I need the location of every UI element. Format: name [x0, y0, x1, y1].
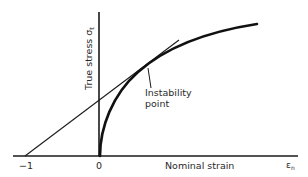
- instability-label-line1: Instability: [145, 87, 192, 98]
- y-axis-label: True stress σt: [83, 27, 96, 91]
- annotation-leader: [148, 68, 151, 88]
- y-axis-label-text: True stress σ: [83, 30, 94, 91]
- x-axis-label: Nominal strain: [165, 160, 234, 171]
- instability-label-line2: point: [145, 98, 170, 109]
- tick-label-minus-one: −1: [19, 160, 33, 171]
- y-axis-label-subscript: t: [88, 27, 96, 30]
- considere-construction-diagram: Instability point True stress σt −1 0 No…: [0, 0, 308, 177]
- tick-label-zero: 0: [96, 160, 102, 171]
- x-axis-symbol: εn: [286, 160, 295, 171]
- x-axis-symbol-subscript: n: [291, 164, 295, 171]
